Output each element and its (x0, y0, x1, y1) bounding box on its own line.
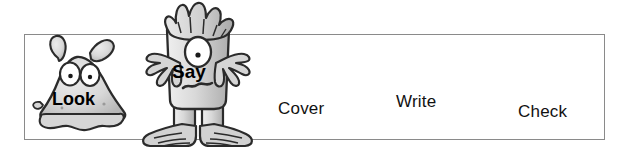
say-label: Say (172, 61, 206, 83)
write-label: Write (396, 92, 436, 112)
cover-label: Cover (278, 99, 324, 119)
look-blob-monster (28, 30, 138, 136)
look-blob-monster-art (28, 30, 138, 136)
look-label: Look (52, 89, 95, 110)
check-label: Check (518, 102, 567, 122)
worksheet-canvas: Look (0, 0, 619, 154)
